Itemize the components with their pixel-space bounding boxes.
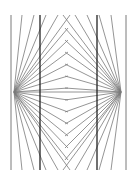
illusion-figure	[0, 0, 133, 177]
ray-line	[99, 92, 121, 170]
ray-line	[14, 92, 46, 170]
ray-line	[14, 92, 34, 170]
ray-line	[14, 92, 68, 124]
ray-line	[65, 28, 121, 92]
ray-line	[65, 92, 121, 124]
ray-line	[14, 15, 70, 92]
ray-line	[99, 15, 121, 92]
